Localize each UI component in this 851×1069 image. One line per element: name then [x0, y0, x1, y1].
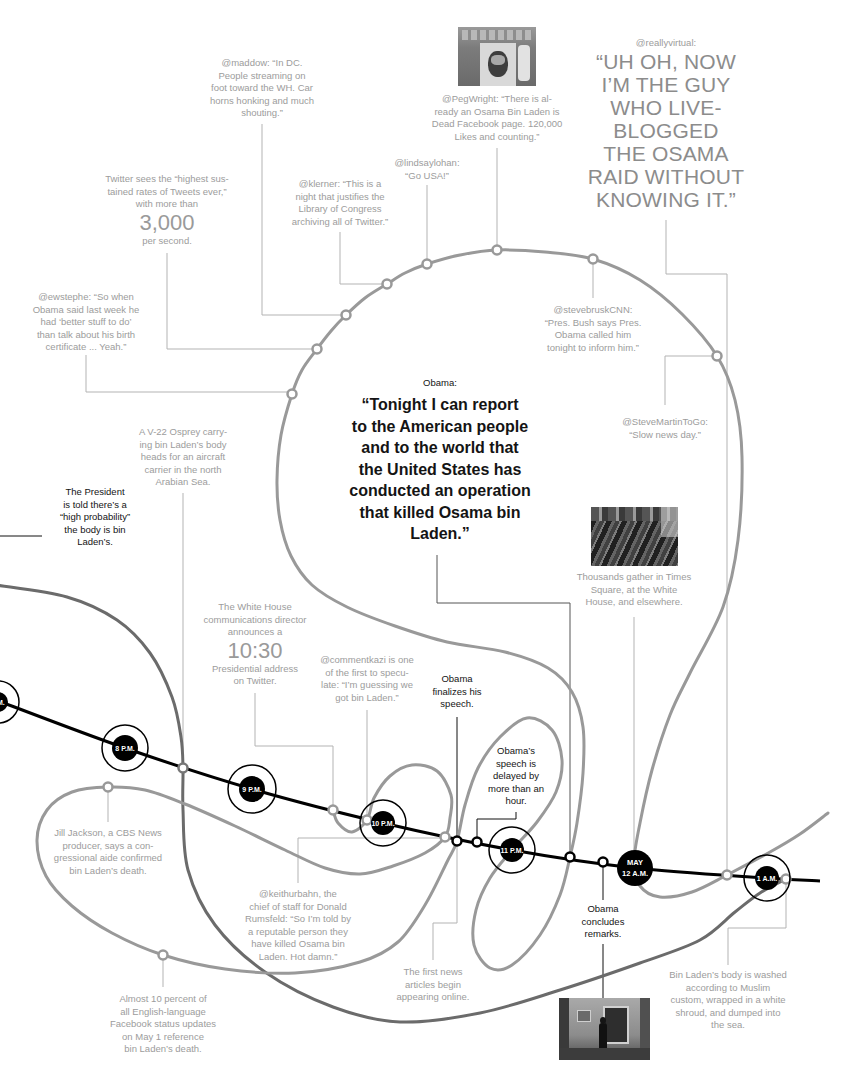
- quote-reallyvirtual-handle: @reallyvirtual:: [586, 37, 746, 50]
- leader-klerner: [340, 232, 387, 284]
- note-line: remarks.: [523, 928, 683, 941]
- note-line: Obama: [377, 673, 537, 686]
- note-times-square: Thousands gather in Times Square, at the…: [554, 571, 714, 609]
- photo-bin-laden-poster: [458, 27, 536, 86]
- note-line: chief of staff for Donald: [218, 901, 378, 914]
- note-line: Obama’s: [436, 745, 596, 758]
- note-line: ready an Osama Bin Laden is: [417, 106, 577, 119]
- note-line: @keithurbahn, the: [218, 888, 378, 901]
- marker-keithurbahn: [441, 833, 450, 842]
- note-line: bin Laden’s death.: [83, 1043, 243, 1056]
- marker-finalizes: [453, 837, 462, 846]
- quote-line: I’M THE GUY: [561, 73, 771, 96]
- note-line: shouting.”: [182, 107, 342, 120]
- time-label: 1 A.M.: [757, 875, 777, 882]
- note-line: @ewstephe: “So when: [6, 291, 166, 304]
- note-line: announces a: [175, 626, 335, 639]
- note-line: Dead Facebook page. 120,000: [417, 118, 577, 131]
- photo-times-square-crowd: [591, 507, 678, 566]
- note-line: shroud, and dumped into: [648, 1007, 808, 1020]
- note-line: The President: [15, 486, 175, 499]
- note-line: speech is: [436, 758, 596, 771]
- note-line: Library of Congress: [260, 203, 420, 216]
- note-line: night that justifies the: [260, 191, 420, 204]
- note-line: “Go USA!”: [347, 170, 507, 183]
- leader-keithurbahn: [298, 838, 445, 883]
- time-node-9pm: 9 P.M.: [228, 765, 276, 813]
- marker-jilljackson: [104, 783, 113, 792]
- stat-figure: 3,000: [87, 211, 247, 235]
- note-line: Laden. Hot damn.”: [218, 951, 378, 964]
- quote-line: RAID WITHOUT: [561, 165, 771, 188]
- note-line: @commentkazi is one: [287, 654, 447, 667]
- marker-concludes: [599, 858, 608, 867]
- time-node-7pm: P.M.: [0, 681, 19, 723]
- note-line: @stevebruskCNN:: [513, 304, 673, 317]
- note-line: articles begin: [353, 979, 513, 992]
- quote-obama-speaker: Obama:: [360, 377, 520, 390]
- marker-facebook: [159, 951, 168, 960]
- time-label: 9 P.M.: [242, 786, 261, 793]
- note-finalizes-speech: Obama finalizes his speech.: [377, 673, 537, 711]
- note-line: Obama called him: [513, 329, 673, 342]
- leader-burial: [728, 879, 786, 965]
- note-line: hour.: [436, 795, 596, 808]
- marker-lindsaylohan: [423, 260, 432, 269]
- marker-obama-quote: [566, 853, 575, 862]
- marker-maddow: [342, 311, 351, 320]
- note-burial-at-sea: Bin Laden’s body is washed according to …: [648, 969, 808, 1032]
- quote-line: and to the world that: [320, 437, 560, 459]
- note-line: is told there’s a: [15, 499, 175, 512]
- note-line: finalizes his: [377, 686, 537, 699]
- note-line: Laden’s.: [15, 536, 175, 549]
- time-node-8pm: 8 P.M.: [102, 725, 148, 771]
- note-line: appearing online.: [353, 991, 513, 1004]
- note-line: certificate ... Yeah.”: [6, 341, 166, 354]
- note-line: custom, wrapped in a white: [648, 994, 808, 1007]
- note-line: @maddow: “In DC.: [182, 57, 342, 70]
- note-first-news: The first news articles begin appearing …: [353, 966, 513, 1004]
- note-line: bin Laden’s death.: [28, 865, 188, 878]
- note-line: Twitter sees the “highest sus-: [87, 173, 247, 186]
- note-klerner: @klerner: “This is a night that justifie…: [260, 178, 420, 228]
- leader-ewstephe: [86, 355, 292, 392]
- note-line: producer, says a con-: [28, 840, 188, 853]
- time-label-month: MAY: [627, 858, 643, 867]
- note-line: Bin Laden’s body is washed: [648, 969, 808, 982]
- note-line: per second.: [87, 235, 247, 248]
- note-speech-delayed: Obama’s speech is delayed by more than a…: [436, 745, 596, 808]
- note-line: The first news: [353, 966, 513, 979]
- time-label: 10 P.M.: [371, 820, 394, 827]
- note-line: @SteveMartinToGo:: [585, 416, 745, 429]
- note-stevemartintogo: @SteveMartinToGo: “Slow news day.”: [585, 416, 745, 441]
- note-line: all English-language: [83, 1006, 243, 1019]
- marker-whitehouse: [329, 806, 338, 815]
- quote-handle: @reallyvirtual:: [586, 37, 746, 50]
- quote-speaker: Obama:: [360, 377, 520, 390]
- note-president-told: The President is told there’s a “high pr…: [15, 486, 175, 549]
- quote-line: Laden.”: [320, 523, 560, 545]
- note-line: horns honking and much: [182, 95, 342, 108]
- note-line: Rumsfeld: “So I’m told by: [218, 913, 378, 926]
- leader-twitter: [167, 253, 317, 349]
- marker-stevemartintogo: [713, 352, 722, 361]
- note-line: Obama said last week he: [6, 304, 166, 317]
- note-line: tained rates of Tweets ever,”: [87, 186, 247, 199]
- note-line: the body is bin: [15, 524, 175, 537]
- marker-commentkazi: [363, 816, 372, 825]
- quote-line: KNOWING IT.”: [561, 188, 771, 211]
- note-line: with more than: [87, 198, 247, 211]
- quote-line: that killed Osama bin: [320, 502, 560, 524]
- quote-line: THE OSAMA: [561, 142, 771, 165]
- time-node-may-12am: MAY 12 A.M.: [617, 850, 653, 886]
- dark-thread: [0, 585, 786, 1022]
- note-line: @PegWright: “There is al-: [417, 93, 577, 106]
- note-twitter-rate: Twitter sees the “highest sus- tained ra…: [87, 173, 247, 247]
- note-line: foot toward the WH. Car: [182, 82, 342, 95]
- note-line: A V-22 Osprey carry-: [103, 426, 263, 439]
- quote-line: “UH OH, NOW: [561, 50, 771, 73]
- note-keithurbahn: @keithurbahn, the chief of staff for Don…: [218, 888, 378, 963]
- note-line: according to Muslim: [648, 982, 808, 995]
- note-maddow: @maddow: “In DC. People streaming on foo…: [182, 57, 342, 120]
- note-line: “high probability”: [15, 511, 175, 524]
